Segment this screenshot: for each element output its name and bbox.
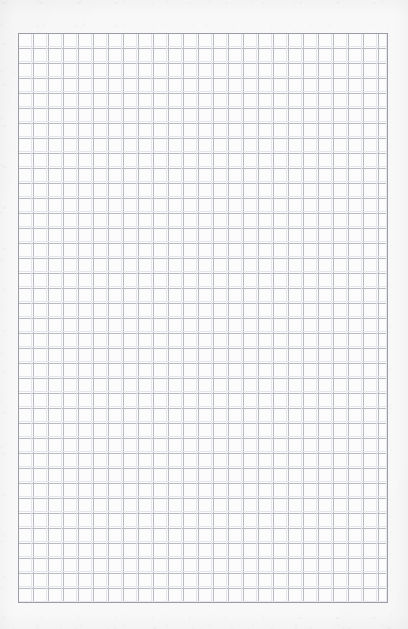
grid-ghost-lines bbox=[18, 33, 388, 603]
grid-lines bbox=[18, 33, 388, 603]
grid-paper-page bbox=[0, 0, 408, 629]
grid-area bbox=[18, 33, 388, 603]
grid-border-frame bbox=[18, 33, 388, 603]
